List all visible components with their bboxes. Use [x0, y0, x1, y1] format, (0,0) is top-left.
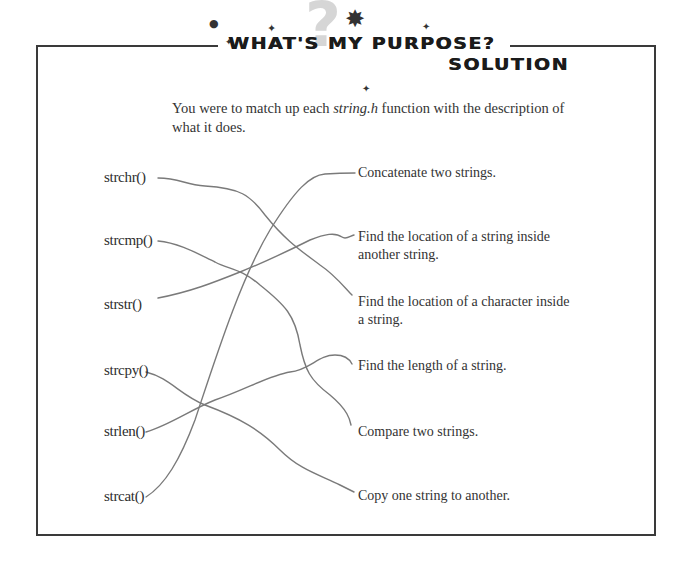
description-length: Find the length of a string. — [358, 357, 578, 375]
description-concatenate: Concatenate two strings. — [358, 164, 578, 182]
matching-lines — [0, 0, 685, 567]
function-strcpy: strcpy() — [104, 362, 148, 379]
description-copy: Copy one string to another. — [358, 487, 578, 505]
match-line-strstr — [158, 234, 354, 298]
match-line-strlen — [146, 355, 352, 432]
match-line-strcmp — [158, 241, 351, 425]
function-strstr: strstr() — [104, 296, 142, 313]
function-strchr: strchr() — [104, 169, 146, 186]
function-strcat: strcat() — [104, 488, 144, 505]
match-line-strchr — [158, 178, 352, 295]
description-compare: Compare two strings. — [358, 423, 578, 441]
function-strcmp: strcmp() — [104, 232, 152, 249]
function-strlen: strlen() — [104, 423, 145, 440]
description-find-character: Find the location of a character inside … — [358, 293, 578, 329]
description-find-string: Find the location of a string inside ano… — [358, 228, 578, 264]
match-line-strcat — [146, 173, 355, 497]
